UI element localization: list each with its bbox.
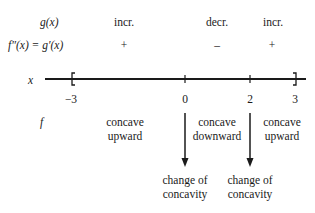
tick-label-neg3: −3 [65,93,77,105]
tick-label-3: 3 [292,93,298,105]
change-at-0-line1: change of [162,174,207,186]
arrowhead-at-0 [182,158,189,167]
g-label-interval-3: incr. [263,16,283,28]
tick-label-0: 0 [182,93,188,105]
concavity-1-line2: upward [108,130,143,142]
arrowhead-at-2 [247,158,254,167]
change-at-2-line2: concavity [228,188,273,200]
change-at-0-line2: concavity [163,188,208,200]
x-row-label: x [28,74,33,86]
concavity-1-line1: concave [106,116,144,128]
g-row-label: g(x) [40,16,59,28]
change-at-2-line1: change of [227,174,272,186]
fpp-row-label: f″(x) = g′(x) [8,39,63,51]
concavity-3-line1: concave [263,116,301,128]
f-row-label: f [40,116,43,128]
concavity-3-line2: upward [265,130,300,142]
g-label-interval-1: incr. [114,16,134,28]
concavity-2-line1: concave [198,116,236,128]
concavity-2-line2: downward [193,130,242,142]
sign-interval-2: – [214,39,220,51]
sign-interval-3: + [269,39,276,51]
sign-interval-1: + [121,39,128,51]
tick-label-2: 2 [247,93,253,105]
g-label-interval-2: decr. [206,16,228,28]
